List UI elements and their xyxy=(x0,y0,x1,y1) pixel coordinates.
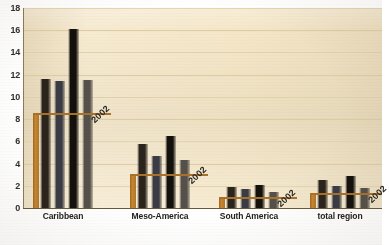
x-axis-category-label: Caribbean xyxy=(19,211,107,221)
bar xyxy=(165,136,176,208)
reference-bar xyxy=(33,114,39,208)
y-axis-tick-label: 0 xyxy=(2,203,20,213)
plot-area xyxy=(23,8,382,208)
y-axis-tick-label: 18 xyxy=(2,3,20,13)
gridline xyxy=(23,8,382,9)
bar xyxy=(179,160,190,208)
bar xyxy=(40,79,51,208)
x-axis-category-label: South America xyxy=(205,211,293,221)
y-axis-tick-label: 2 xyxy=(2,181,20,191)
bar xyxy=(137,144,148,208)
y-axis-tick-label: 8 xyxy=(2,114,20,124)
y-axis-tick-label: 4 xyxy=(2,159,20,169)
x-axis-category-label: Meso-America xyxy=(116,211,204,221)
y-axis-tick-label: 16 xyxy=(2,25,20,35)
reference-bar xyxy=(130,175,136,208)
y-axis-tick-label: 10 xyxy=(2,92,20,102)
y-axis-line xyxy=(23,8,24,209)
x-axis-line xyxy=(23,208,382,209)
reference-bar xyxy=(310,194,316,208)
bar xyxy=(68,29,79,208)
bar xyxy=(331,186,342,208)
y-axis-tick-label: 12 xyxy=(2,70,20,80)
bar xyxy=(54,81,65,208)
y-axis-tick-label: 14 xyxy=(2,47,20,57)
x-axis-category-label: total region xyxy=(296,211,384,221)
reference-bar xyxy=(219,198,225,208)
bar xyxy=(151,156,162,208)
y-axis-tick-label: 6 xyxy=(2,136,20,146)
bar xyxy=(82,80,93,208)
